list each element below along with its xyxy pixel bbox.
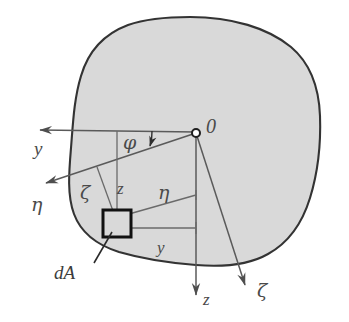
- cross-section-diagram: y η z ζ φ: [0, 0, 349, 322]
- coord-eta-label: η: [158, 181, 170, 203]
- axis-eta-label: η: [31, 193, 43, 215]
- coord-z-label: z: [116, 179, 124, 198]
- coord-zeta-label: ζ: [80, 181, 92, 203]
- element-area-square: [103, 210, 131, 237]
- angle-phi-label: φ: [123, 131, 137, 153]
- axis-zeta-label: ζ: [257, 279, 269, 301]
- origin-label: 0: [206, 115, 216, 137]
- axis-y-label: y: [32, 138, 43, 159]
- axis-z-label: z: [202, 290, 210, 309]
- coord-y-label: y: [155, 238, 165, 257]
- element-area-label: dA: [54, 262, 76, 283]
- figure-root: y η z ζ φ: [0, 0, 349, 322]
- origin-marker: [192, 129, 200, 137]
